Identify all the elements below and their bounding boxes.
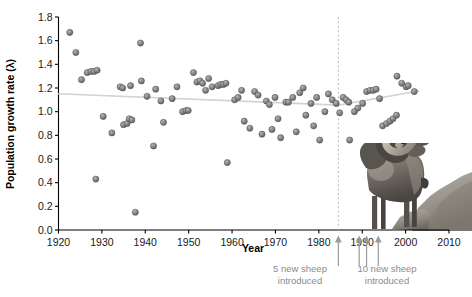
x-tick-label: 1940: [134, 236, 158, 248]
data-point: [317, 137, 323, 143]
data-point: [290, 94, 296, 100]
y-axis-title: Population growth rate (λ): [4, 59, 16, 189]
data-point: [199, 80, 205, 86]
data-point: [405, 83, 411, 89]
second-introduction-label-line2: introduced: [365, 275, 409, 286]
x-tick-label: 2000: [394, 236, 418, 248]
y-tick-label: 1.2: [38, 82, 53, 94]
data-point: [272, 94, 278, 100]
x-tick-label: 1950: [177, 236, 201, 248]
y-tick-label: 1.0: [38, 105, 53, 117]
data-point: [129, 117, 135, 123]
data-point: [394, 73, 400, 79]
data-point: [224, 159, 230, 165]
data-point: [150, 143, 156, 149]
y-tick-label: 1.4: [38, 58, 53, 70]
data-point: [346, 99, 352, 105]
data-point: [303, 112, 309, 118]
data-point: [202, 87, 208, 93]
sheep-horn-highlight: [397, 124, 412, 134]
y-tick-label: 0.0: [38, 224, 53, 236]
data-point: [239, 87, 245, 93]
y-tick-label: 0.2: [38, 200, 53, 212]
data-point: [144, 93, 150, 99]
data-point: [293, 129, 299, 135]
data-point: [311, 123, 317, 129]
population-growth-scatter-chart: 0.00.20.40.60.81.01.21.41.61.8 192019301…: [0, 0, 472, 297]
data-point: [174, 84, 180, 90]
first-introduction-label-line2: introduced: [278, 275, 322, 286]
data-point: [337, 110, 343, 116]
y-tick-label: 1.6: [38, 34, 53, 46]
data-point: [169, 96, 175, 102]
data-point: [78, 77, 84, 83]
photo-grain-overlay: [345, 143, 472, 231]
first-introduction-label-line1: 5 new sheep: [273, 263, 327, 274]
data-point: [300, 85, 306, 91]
data-point: [206, 75, 212, 81]
data-point: [93, 176, 99, 182]
trend-line-pre-introduction: [59, 94, 339, 105]
data-point: [120, 85, 126, 91]
x-axis-title: Year: [242, 242, 264, 254]
data-point: [278, 135, 284, 141]
data-point: [255, 92, 261, 98]
data-point: [259, 131, 265, 137]
data-point: [373, 86, 379, 92]
y-axis-tick-labels: 0.00.20.40.60.81.01.21.41.61.8: [38, 11, 53, 236]
data-point: [190, 70, 196, 76]
y-tick-label: 1.8: [38, 11, 53, 23]
data-point: [209, 84, 215, 90]
x-tick-label: 1930: [90, 236, 114, 248]
data-point: [285, 99, 291, 105]
data-point: [185, 107, 191, 113]
data-point: [94, 67, 100, 73]
x-tick-label: 1920: [47, 236, 71, 248]
data-point: [153, 86, 159, 92]
x-tick-label: 2010: [437, 236, 461, 248]
event-arrow-1: [335, 236, 342, 267]
data-point: [235, 94, 241, 100]
data-point: [347, 137, 353, 143]
data-point: [109, 130, 115, 136]
data-point: [100, 113, 106, 119]
x-tick-label: 1970: [264, 236, 288, 248]
data-point: [322, 109, 328, 115]
data-point: [308, 100, 314, 106]
figure-container: 0.00.20.40.60.81.01.21.41.61.8 192019301…: [0, 0, 472, 297]
data-point: [160, 119, 166, 125]
data-point: [314, 94, 320, 100]
y-tick-label: 0.4: [38, 176, 53, 188]
data-point: [355, 105, 361, 111]
x-tick-label: 1980: [307, 236, 331, 248]
y-tick-label: 0.8: [38, 129, 53, 141]
data-point: [158, 98, 164, 104]
data-point: [269, 126, 275, 132]
data-point: [275, 116, 281, 122]
data-point: [241, 118, 247, 124]
data-point: [67, 29, 73, 35]
data-point: [266, 101, 272, 107]
bighorn-sheep-photo: [345, 119, 472, 231]
data-point: [360, 100, 366, 106]
data-point: [138, 78, 144, 84]
x-tick-label: 1960: [220, 236, 244, 248]
x-tick-label: 1990: [351, 236, 375, 248]
data-point: [333, 100, 339, 106]
data-point: [411, 88, 417, 94]
data-point: [73, 49, 79, 55]
data-point: [376, 96, 382, 102]
data-point: [393, 112, 399, 118]
data-point: [223, 80, 229, 86]
data-point: [247, 125, 253, 131]
y-tick-label: 0.6: [38, 153, 53, 165]
data-point: [132, 209, 138, 215]
event-arrow-4: [375, 236, 382, 267]
data-point: [325, 91, 331, 97]
data-point: [137, 40, 143, 46]
second-introduction-label-line1: 10 new sheep: [357, 263, 416, 274]
data-point: [127, 83, 133, 89]
event-arrows: [335, 236, 382, 267]
